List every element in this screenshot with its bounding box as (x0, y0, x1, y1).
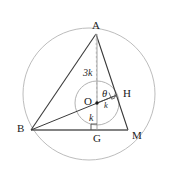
incenter-label-O: O (84, 96, 92, 107)
measure-label-AO: 3k (83, 68, 92, 78)
angle-label-theta: θ (102, 89, 107, 100)
vertex-label-B: B (17, 123, 24, 134)
measure-label-OG: k (89, 113, 93, 123)
vertex-label-M: M (132, 130, 142, 141)
figure-canvas (0, 0, 174, 172)
segment-AM (96, 34, 128, 130)
measure-label-OH: k (104, 101, 108, 110)
geometry-figure: A B M G H O θ 3k k k (0, 0, 174, 172)
vertex-label-G: G (93, 133, 101, 144)
vertex-label-A: A (92, 20, 100, 31)
incenter-point-O (95, 101, 98, 104)
vertex-label-H: H (123, 88, 131, 99)
